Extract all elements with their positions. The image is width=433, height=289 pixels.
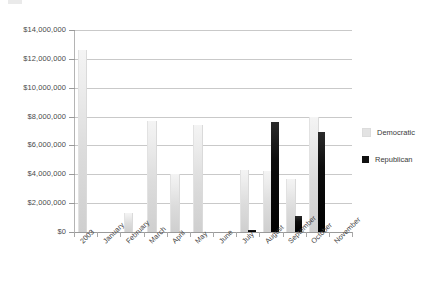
y-axis-label: $4,000,000 (27, 169, 66, 178)
bar-democratic-may (193, 125, 203, 232)
plot-area (74, 30, 352, 232)
y-axis-tick (69, 88, 75, 89)
x-axis-tick (144, 232, 145, 237)
bar-democratic-july (240, 170, 250, 232)
legend-label-democratic: Democratic (377, 128, 415, 137)
x-axis-tick (306, 232, 307, 237)
x-axis-tick (259, 232, 260, 237)
bar-republican-october (318, 132, 326, 232)
republican-swatch-icon (362, 156, 369, 163)
x-axis-tick (236, 232, 237, 237)
y-axis-label: $12,000,000 (23, 54, 66, 63)
bar-democratic-march (147, 121, 157, 232)
bar-democratic-2003 (78, 50, 88, 232)
legend-label-republican: Republican (375, 155, 413, 164)
y-axis-tick (69, 203, 75, 204)
y-axis-label: $8,000,000 (27, 112, 66, 121)
x-axis-tick (329, 232, 330, 237)
chart-legend: Democratic Republican (362, 128, 432, 182)
y-axis-tick (69, 117, 75, 118)
x-axis-tick (352, 232, 353, 237)
y-axis-label: $0 (57, 227, 66, 236)
y-axis-label: $2,000,000 (27, 198, 66, 207)
bar-democratic-april (170, 174, 180, 232)
gridline (74, 59, 352, 60)
x-axis-tick (283, 232, 284, 237)
x-axis-tick (167, 232, 168, 237)
legend-item-democratic: Democratic (362, 128, 432, 137)
democratic-swatch-icon (362, 128, 371, 137)
x-axis-tick (190, 232, 191, 237)
gridline (74, 88, 352, 89)
y-axis-line (74, 30, 75, 232)
bar-republican-august (271, 122, 279, 232)
bar-chart: $14,000,000$12,000,000$10,000,000$8,000,… (0, 0, 433, 289)
y-axis-label: $14,000,000 (23, 25, 66, 34)
x-axis-tick (120, 232, 121, 237)
x-axis-tick (213, 232, 214, 237)
y-axis-tick (69, 174, 75, 175)
x-axis-tick (74, 232, 75, 237)
y-axis-tick (69, 145, 75, 146)
y-axis-label: $6,000,000 (27, 140, 66, 149)
y-axis-labels: $14,000,000$12,000,000$10,000,000$8,000,… (0, 0, 66, 289)
legend-item-republican: Republican (362, 155, 432, 164)
x-axis-tick (97, 232, 98, 237)
y-axis-tick (69, 30, 75, 31)
y-axis-tick (69, 59, 75, 60)
gridline (74, 30, 352, 31)
y-axis-label: $10,000,000 (23, 83, 66, 92)
